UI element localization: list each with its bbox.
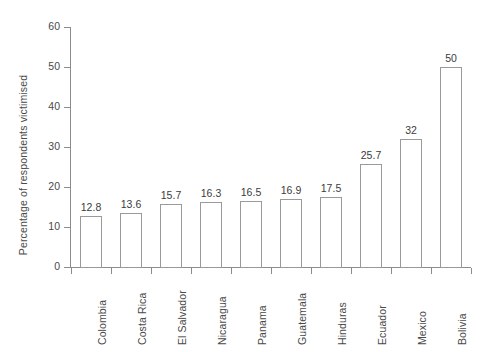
y-tick-mark (64, 187, 70, 188)
bar (280, 199, 302, 268)
bar (320, 197, 342, 268)
x-tick-mark (191, 268, 192, 274)
x-tick-mark (71, 268, 72, 274)
y-tick-mark (64, 227, 70, 228)
x-tick-mark (471, 268, 472, 274)
x-category-label: Colombia (96, 300, 108, 345)
y-tick-mark (64, 147, 70, 148)
x-tick-mark (351, 268, 352, 274)
x-category-label: Nicaragua (216, 296, 228, 345)
y-tick-label: 10 (28, 221, 60, 232)
x-tick-mark (111, 268, 112, 274)
bar (200, 202, 222, 268)
y-tick-mark (64, 267, 70, 268)
x-tick-mark (391, 268, 392, 274)
bar-value-label: 17.5 (305, 182, 357, 194)
y-tick-label: 50 (28, 61, 60, 72)
x-tick-mark (271, 268, 272, 274)
bar (120, 213, 142, 268)
x-tick-mark (431, 268, 432, 274)
bar-chart: Percentage of respondents victimised 010… (0, 0, 487, 352)
y-tick-label: 40 (28, 101, 60, 112)
x-tick-mark (311, 268, 312, 274)
y-tick-label: 30 (28, 141, 60, 152)
y-tick-mark (64, 107, 70, 108)
x-category-label: El Salvador (176, 290, 188, 345)
x-category-label: Ecuador (376, 305, 388, 345)
y-axis-line (70, 27, 71, 268)
x-category-label: Panama (256, 305, 268, 345)
bar-value-label: 32 (385, 124, 437, 136)
bar (80, 216, 102, 268)
y-tick-label: 20 (28, 181, 60, 192)
x-tick-mark (231, 268, 232, 274)
x-category-label: Mexico (416, 311, 428, 345)
x-category-label: Costa Rica (136, 293, 148, 345)
x-category-label: Guatemala (296, 293, 308, 345)
bar (160, 204, 182, 268)
y-tick-mark (64, 27, 70, 28)
bar-value-label: 50 (425, 52, 477, 64)
y-tick-mark (64, 67, 70, 68)
bar (240, 201, 262, 268)
y-tick-label: 0 (28, 261, 60, 272)
x-tick-mark (151, 268, 152, 274)
x-category-label: Hinduras (336, 302, 348, 345)
x-category-label: Bolivia (456, 313, 468, 345)
bar-value-label: 25.7 (345, 149, 397, 161)
bar (400, 139, 422, 268)
bar (360, 164, 382, 268)
y-tick-label: 60 (28, 21, 60, 32)
bar (440, 67, 462, 268)
